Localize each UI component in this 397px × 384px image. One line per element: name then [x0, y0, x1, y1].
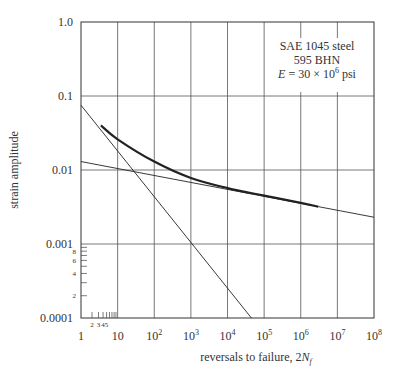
svg-text:3: 3: [97, 321, 101, 329]
svg-text:4: 4: [73, 270, 77, 278]
annotation-material: SAE 1045 steel: [280, 39, 355, 53]
y-tick-label: 0.01: [52, 163, 73, 177]
svg-text:6: 6: [73, 257, 77, 265]
y-tick-labels: 1.00.10.010.0010.0001: [40, 15, 73, 325]
x-tick-label: 10: [112, 329, 124, 343]
y-tick-label: 0.0001: [40, 311, 73, 325]
x-tick-label: 104: [220, 328, 236, 343]
x-tick-label: 106: [293, 328, 309, 343]
x-tick-labels: 110102103104105106107108: [78, 328, 382, 343]
y-tick-label: 0.001: [46, 237, 73, 251]
x-tick-label: 105: [256, 328, 272, 343]
annotation-hardness: 595 BHN: [294, 53, 341, 67]
minor-ticks: [81, 247, 116, 318]
series-line: [101, 125, 318, 206]
y-tick-label: 0.1: [58, 89, 73, 103]
x-tick-label: 1: [78, 329, 84, 343]
y-axis-label: strain amplitude: [7, 131, 21, 209]
svg-text:8: 8: [73, 248, 77, 256]
x-tick-label: 102: [146, 328, 162, 343]
x-tick-label: 103: [183, 328, 199, 343]
annotation-modulus: E = 30 × 106 psi: [277, 66, 357, 81]
svg-text:5: 5: [105, 321, 109, 329]
x-tick-label: 107: [329, 328, 345, 343]
x-tick-label: 108: [366, 328, 382, 343]
svg-text:2: 2: [90, 321, 94, 329]
y-tick-label: 1.0: [58, 15, 73, 29]
svg-text:2: 2: [73, 292, 77, 300]
series-line: [81, 105, 251, 318]
strain-life-chart: 1.00.10.010.0010.0001 110102103104105106…: [0, 0, 397, 384]
x-axis-label: reversals to failure, 2Nf: [200, 350, 313, 366]
